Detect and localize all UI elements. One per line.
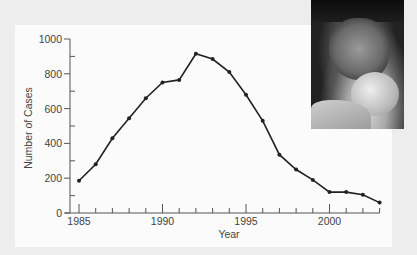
y-axis-label: Number of Cases xyxy=(22,87,34,169)
photo-adult-face xyxy=(329,18,389,80)
data-point xyxy=(378,201,382,205)
y-tick-label: 800 xyxy=(44,68,62,80)
x-tick-label: 1990 xyxy=(151,215,175,227)
data-point xyxy=(311,178,315,182)
data-point xyxy=(294,168,298,172)
data-point xyxy=(261,119,265,123)
x-tick-label: 1995 xyxy=(234,215,258,227)
y-tick-label: 400 xyxy=(44,137,62,149)
data-point xyxy=(277,153,281,157)
data-point xyxy=(94,162,98,166)
data-point xyxy=(110,136,114,140)
data-point xyxy=(177,78,181,82)
data-point xyxy=(328,190,332,194)
data-point xyxy=(144,96,148,100)
x-tick-label: 2000 xyxy=(318,215,342,227)
data-point xyxy=(344,190,348,194)
photo-adult-and-infant xyxy=(311,0,404,129)
data-point xyxy=(161,81,165,85)
y-tick-label: 200 xyxy=(44,172,62,184)
data-point xyxy=(127,116,131,120)
data-point xyxy=(227,70,231,74)
y-tick-label: 1000 xyxy=(39,33,63,45)
data-point xyxy=(77,179,81,183)
y-tick-label: 0 xyxy=(56,207,62,219)
data-point xyxy=(244,93,248,97)
x-axis-label: Year xyxy=(218,228,240,240)
data-point xyxy=(361,193,365,197)
x-tick-label: 1985 xyxy=(67,215,91,227)
y-tick-label: 600 xyxy=(44,103,62,115)
data-point xyxy=(211,57,215,61)
data-point xyxy=(194,52,198,56)
